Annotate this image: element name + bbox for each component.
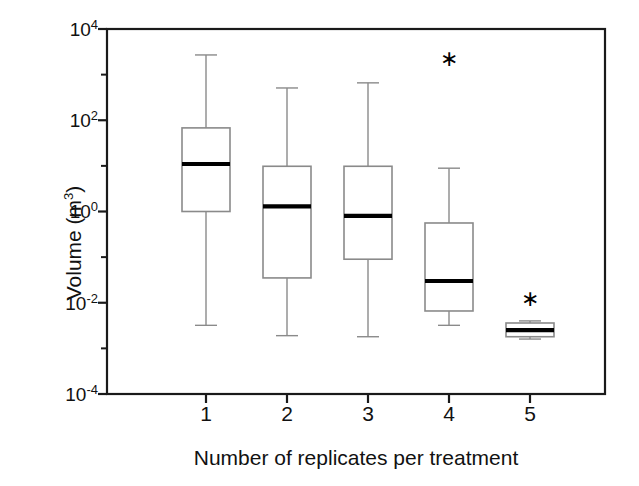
box-group-2 — [263, 88, 311, 336]
box-group-1 — [182, 55, 230, 325]
plot-canvas: ∗∗ — [0, 0, 639, 486]
box-group-3 — [344, 83, 392, 337]
x-tick-label-2: 2 — [281, 402, 293, 426]
x-tick-label-3: 3 — [362, 402, 374, 426]
box-group-5: ∗ — [506, 286, 554, 339]
outlier-asterisk-4-0: ∗ — [440, 46, 458, 71]
x-tick-label-4: 4 — [443, 402, 455, 426]
box-4 — [425, 223, 473, 311]
outlier-asterisk-5-0: ∗ — [521, 286, 539, 311]
box-group-4: ∗ — [425, 46, 473, 325]
box-1 — [182, 128, 230, 212]
box-3 — [344, 166, 392, 259]
box-2 — [263, 166, 311, 278]
x-tick-label-1: 1 — [200, 402, 212, 426]
x-axis-title: Number of replicates per treatment — [107, 446, 605, 470]
x-tick-label-5: 5 — [524, 402, 536, 426]
boxplot-figure: 104 102 100 10-2 10-4 Volume (m3) ∗∗ 1 2… — [0, 0, 639, 486]
